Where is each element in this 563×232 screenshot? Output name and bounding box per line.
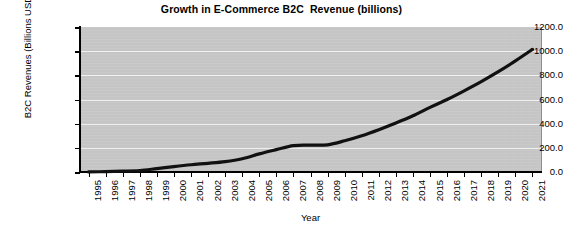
x-tick-label: 1996 — [110, 180, 120, 201]
x-tick-mark — [345, 173, 346, 177]
x-tick-mark — [140, 173, 141, 177]
x-tick-label: 2004 — [247, 180, 257, 201]
gridline — [80, 124, 541, 125]
x-tick-label: 2014 — [417, 180, 427, 201]
x-tick-mark — [259, 173, 260, 177]
x-tick-mark — [123, 173, 124, 177]
x-tick-label: 2011 — [366, 180, 376, 200]
x-tick-mark — [396, 173, 397, 177]
x-tick-mark — [106, 173, 107, 177]
y-tick-mark — [75, 27, 80, 29]
x-tick-mark — [413, 173, 414, 177]
x-tick-label: 1997 — [127, 180, 137, 201]
y-tick-label: 0.0 — [491, 167, 563, 177]
x-tick-mark — [515, 173, 516, 177]
y-tick-label: 200.0 — [491, 143, 563, 153]
x-tick-label: 1998 — [144, 180, 154, 201]
x-tick-mark — [157, 173, 158, 177]
x-tick-label: 2006 — [281, 180, 291, 201]
gridline — [80, 75, 541, 76]
x-tick-label: 2020 — [520, 180, 530, 201]
x-tick-label: 2009 — [332, 180, 342, 201]
y-axis-title: B2C Revenues (Billions USD) — [22, 0, 33, 131]
x-tick-label: 2016 — [452, 180, 462, 201]
x-tick-label: 2005 — [264, 180, 274, 201]
x-tick-label: 2007 — [298, 180, 308, 201]
x-tick-label: 2017 — [469, 180, 479, 201]
x-tick-mark — [379, 173, 380, 177]
x-tick-label: 2021 — [537, 180, 547, 201]
x-tick-mark — [191, 173, 192, 177]
x-tick-mark — [362, 173, 363, 177]
x-tick-label: 1999 — [161, 180, 171, 201]
x-tick-mark — [498, 173, 499, 177]
y-tick-label: 400.0 — [491, 119, 563, 129]
x-tick-label: 2013 — [400, 180, 410, 201]
gridline — [80, 51, 541, 52]
y-tick-mark — [75, 75, 80, 77]
x-tick-mark — [447, 173, 448, 177]
x-tick-mark — [174, 173, 175, 177]
x-tick-mark — [464, 173, 465, 177]
chart-container: Growth in E-Commerce B2C Revenue (billio… — [0, 0, 563, 232]
x-tick-mark — [89, 173, 90, 177]
x-axis-title: Year — [80, 212, 541, 223]
y-tick-mark — [75, 148, 80, 150]
x-tick-mark — [225, 173, 226, 177]
x-tick-mark — [276, 173, 277, 177]
x-tick-mark — [293, 173, 294, 177]
x-tick-mark — [311, 173, 312, 177]
x-tick-label: 2019 — [503, 180, 513, 201]
x-tick-label: 2001 — [195, 180, 205, 201]
y-tick-label: 1200.0 — [491, 22, 563, 32]
y-tick-label: 1000.0 — [491, 46, 563, 56]
x-tick-mark — [242, 173, 243, 177]
x-tick-mark — [208, 173, 209, 177]
x-tick-mark — [328, 173, 329, 177]
x-tick-label: 2002 — [213, 180, 223, 201]
x-tick-label: 2003 — [230, 180, 240, 201]
y-tick-label: 600.0 — [491, 95, 563, 105]
x-tick-mark — [481, 173, 482, 177]
x-tick-label: 2018 — [486, 180, 496, 201]
x-tick-mark — [532, 173, 533, 177]
x-tick-label: 2008 — [315, 180, 325, 201]
x-tick-label: 1995 — [93, 180, 103, 201]
x-tick-label: 2015 — [435, 180, 445, 201]
x-tick-mark — [430, 173, 431, 177]
y-tick-mark — [75, 100, 80, 102]
chart-title: Growth in E-Commerce B2C Revenue (billio… — [0, 3, 563, 15]
y-tick-mark — [75, 124, 80, 126]
gridline — [80, 148, 541, 149]
x-tick-label: 2000 — [178, 180, 188, 201]
y-tick-mark — [75, 51, 80, 53]
y-tick-label: 800.0 — [491, 70, 563, 80]
y-tick-mark — [75, 172, 80, 174]
gridline — [80, 100, 541, 101]
x-tick-label: 2012 — [383, 180, 393, 201]
plot-area — [80, 27, 542, 172]
x-tick-label: 2010 — [349, 180, 359, 201]
